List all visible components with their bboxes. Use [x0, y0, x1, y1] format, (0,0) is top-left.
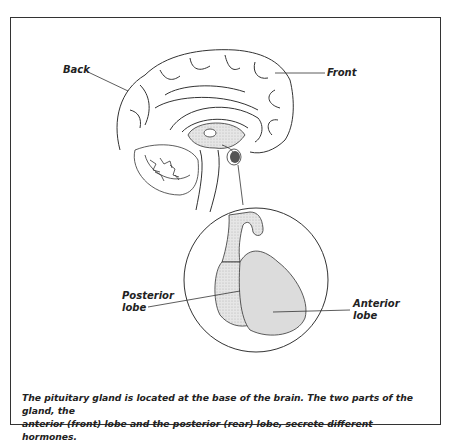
caption-line1: The pituitary gland is located at the ba… [22, 391, 422, 417]
label-posterior-line2: lobe [122, 302, 174, 314]
thalamus [188, 123, 245, 148]
label-back: Back [63, 64, 90, 76]
label-anterior-lobe: Anterior lobe [353, 298, 400, 322]
cerebellum [134, 145, 198, 195]
label-anterior-line2: lobe [353, 310, 400, 322]
caption-line2: anterior (front) lobe and the posterior … [22, 417, 422, 440]
figure-caption: The pituitary gland is located at the ba… [22, 391, 422, 440]
label-anterior-line1: Anterior [353, 298, 400, 310]
brainstem [196, 150, 219, 212]
label-posterior-line1: Posterior [122, 290, 174, 302]
label-posterior-lobe: Posterior lobe [122, 290, 174, 314]
label-front: Front [327, 67, 356, 79]
pituitary-small [230, 151, 240, 163]
